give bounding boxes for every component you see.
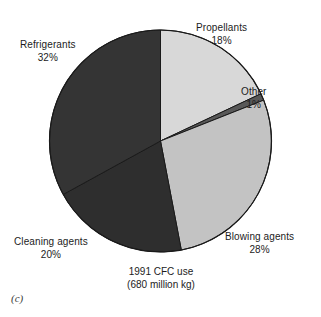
chart-caption: 1991 CFC use (680 million kg) xyxy=(103,266,219,291)
slice-label-propellants: Propellants 18% xyxy=(196,22,247,47)
slice-label-cleaning-agents: Cleaning agents 20% xyxy=(14,236,88,261)
slice-label-cleaning-agents-name: Cleaning agents xyxy=(14,236,88,247)
slice-label-blowing-agents-name: Blowing agents xyxy=(225,231,294,242)
slice-label-blowing-agents: Blowing agents 28% xyxy=(225,231,294,256)
slice-label-other-name: Other xyxy=(241,86,267,97)
chart-caption-line2: (680 million kg) xyxy=(127,279,195,290)
figure-letter: (c) xyxy=(11,292,23,304)
slice-label-refrigerants-pct: 32% xyxy=(20,52,76,65)
pie-chart-figure: Propellants 18% Refrigerants 32% Other 1… xyxy=(0,0,321,317)
slice-label-refrigerants-name: Refrigerants xyxy=(20,39,76,50)
slice-label-cleaning-agents-pct: 20% xyxy=(14,249,88,262)
slice-label-propellants-name: Propellants xyxy=(196,22,247,33)
slice-label-other-pct: 1% xyxy=(241,99,267,112)
slice-label-blowing-agents-pct: 28% xyxy=(225,244,294,257)
chart-caption-line1: 1991 CFC use xyxy=(129,266,193,277)
slice-label-propellants-pct: 18% xyxy=(196,35,247,48)
slice-label-other: Other 1% xyxy=(241,86,267,111)
slice-label-refrigerants: Refrigerants 32% xyxy=(20,39,76,64)
